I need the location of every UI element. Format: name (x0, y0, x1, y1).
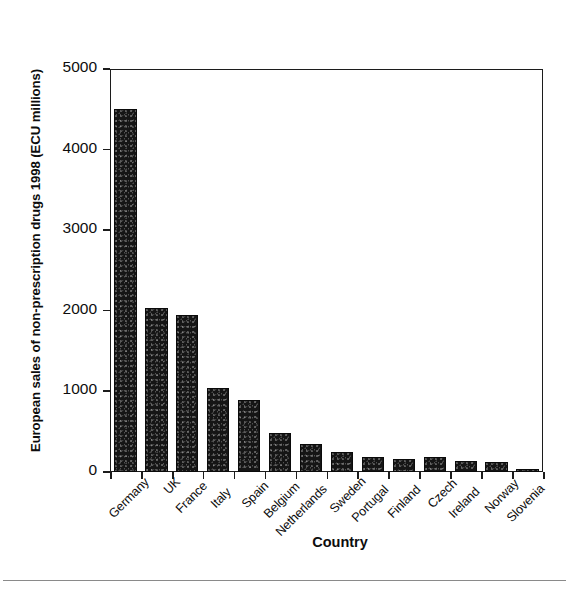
bar (455, 461, 477, 472)
bar-slot (172, 69, 203, 472)
x-tick-label: Italy (208, 486, 234, 512)
bar-slot (265, 69, 296, 472)
y-tick-mark (103, 310, 110, 312)
x-tick-mark (481, 472, 483, 479)
bar-slot (141, 69, 172, 472)
bar-slot (357, 69, 388, 472)
bar-slot (110, 69, 141, 472)
bar-slot (450, 69, 481, 472)
y-axis-title: European sales of non-prescription drugs… (28, 46, 43, 476)
bar (424, 457, 446, 472)
bar-slot (388, 69, 419, 472)
x-tick-label: Finland (385, 482, 423, 520)
x-tick-mark (265, 472, 267, 479)
y-tick-mark (103, 390, 110, 392)
bar-slot (203, 69, 234, 472)
bar (145, 308, 167, 472)
y-tick-mark (103, 229, 110, 231)
x-tick-label: Germany (106, 475, 152, 521)
x-tick-mark (419, 472, 421, 479)
x-tick-mark (110, 472, 112, 479)
bar-slot (234, 69, 265, 472)
bar (393, 459, 415, 472)
page-rule (3, 580, 566, 581)
y-tick-mark (103, 68, 110, 70)
x-axis-title: Country (0, 534, 569, 550)
bar (269, 433, 291, 472)
y-tick-label: 4000 (63, 139, 97, 157)
x-tick-mark (296, 472, 298, 479)
bar-chart-figure: European sales of non-prescription drugs… (0, 0, 569, 592)
y-tick-label: 5000 (63, 58, 97, 76)
bar-slot (512, 69, 543, 472)
bar (176, 315, 198, 472)
y-tick-label: 0 (88, 461, 97, 479)
bar (300, 444, 322, 472)
x-tick-mark (543, 472, 545, 479)
bar (238, 400, 260, 472)
y-tick-mark (103, 149, 110, 151)
y-tick-label: 1000 (63, 380, 97, 398)
bar-slot (481, 69, 512, 472)
bar (114, 109, 136, 472)
x-tick-mark (388, 472, 390, 479)
x-tick-mark (203, 472, 205, 479)
x-tick-mark (234, 472, 236, 479)
bar-series (110, 69, 543, 472)
bar-slot (296, 69, 327, 472)
bar (362, 457, 384, 472)
y-tick-mark (103, 471, 110, 473)
bar (485, 462, 507, 472)
x-tick-mark (327, 472, 329, 479)
y-tick-label: 3000 (63, 219, 97, 237)
bar (207, 388, 229, 472)
bar-slot (419, 69, 450, 472)
y-tick-label: 2000 (63, 300, 97, 318)
bar-slot (327, 69, 358, 472)
bar (331, 452, 353, 472)
